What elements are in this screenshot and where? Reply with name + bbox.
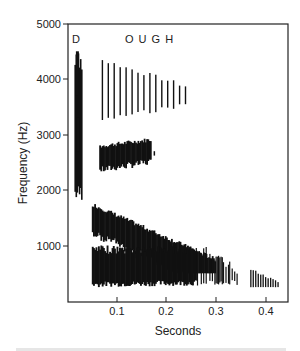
y-axis <box>63 24 68 246</box>
x-tick-label: 0.3 <box>208 305 223 317</box>
spectrogram-chart: 5000 4000 3000 2000 1000 0.1 0.2 0.3 0.4… <box>0 0 300 351</box>
y-axis-title: Frequency (Hz) <box>16 122 30 205</box>
phoneme-label-ough: O U G H <box>125 33 174 45</box>
y-tick-label: 3000 <box>37 129 61 141</box>
y-tick-label: 5000 <box>37 18 61 30</box>
x-tick-label: 0.2 <box>158 305 173 317</box>
y-tick-label: 1000 <box>37 240 61 252</box>
y-tick-label: 2000 <box>37 184 61 196</box>
x-axis-title: Seconds <box>155 324 202 338</box>
x-tick-label: 0.1 <box>109 305 124 317</box>
phoneme-label-d: D <box>72 33 81 45</box>
x-tick-label: 0.4 <box>258 305 273 317</box>
y-tick-label: 4000 <box>37 73 61 85</box>
